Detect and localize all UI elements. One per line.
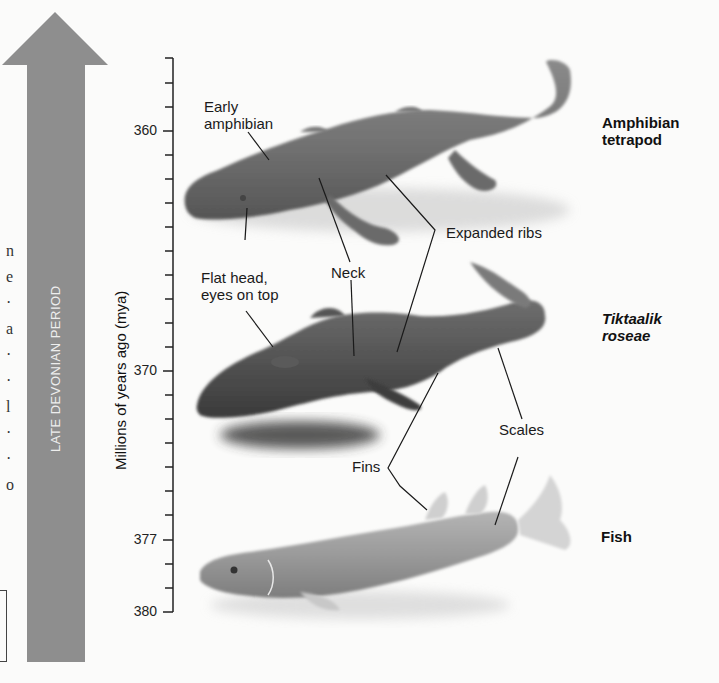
annotation-expanded-ribs: Expanded ribs <box>446 224 542 241</box>
fish-illustration <box>200 475 570 619</box>
time-axis <box>163 58 173 612</box>
species-name-line: tetrapod <box>602 131 680 148</box>
annotation-line: Flat head, <box>201 269 279 286</box>
species-label-tiktaalik-roseae: Tiktaalik roseae <box>602 310 662 344</box>
annotation-line: eyes on top <box>201 286 279 303</box>
annotation-neck: Neck <box>331 264 365 281</box>
species-label-fish: Fish <box>601 528 632 545</box>
species-name-line: Amphibian <box>602 114 680 131</box>
annotation-scales: Scales <box>499 421 544 438</box>
tick-label-360: 360 <box>117 122 157 138</box>
annotation-line: amphibian <box>204 115 273 132</box>
period-label: LATE DEVONIAN PERIOD <box>48 285 63 452</box>
tick-label-377: 377 <box>117 531 157 547</box>
species-name-line: Tiktaalik <box>602 310 662 327</box>
tick-label-380: 380 <box>117 603 157 619</box>
amphibian-tetrapod-illustration <box>185 60 571 245</box>
species-name-line: roseae <box>602 327 662 344</box>
axis-title: Millions of years ago (mya) <box>112 291 129 470</box>
annotation-line: Early <box>204 98 273 115</box>
species-label-amphibian-tetrapod: Amphibian tetrapod <box>602 114 680 148</box>
annotation-flat-head: Flat head, eyes on top <box>201 269 279 303</box>
tick-label-370: 370 <box>117 362 157 378</box>
annotation-early-amphibian: Early amphibian <box>204 98 273 132</box>
species-name-line: Fish <box>601 528 632 545</box>
annotation-fins: Fins <box>352 458 380 475</box>
